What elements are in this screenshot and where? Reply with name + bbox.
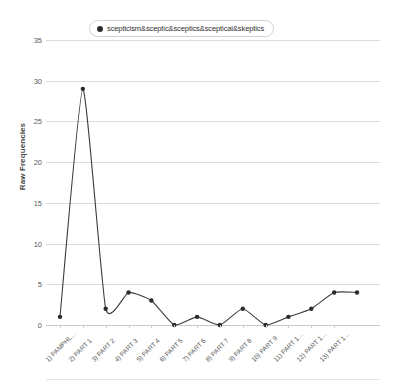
legend-dot-icon [97, 26, 103, 32]
data-point[interactable] [172, 323, 176, 327]
data-point[interactable] [103, 307, 107, 311]
y-axis-ticks: 35302520151050 [16, 40, 42, 325]
y-tick-label: 35 [16, 36, 42, 45]
legend-item-label: scepticism&sceptic&sceptics&sceptical&sk… [107, 25, 264, 33]
gridline-0 [46, 325, 380, 326]
x-tick-label: 3) PART 2 [90, 337, 116, 363]
chart-container: scepticism&sceptic&sceptics&sceptical&sk… [0, 0, 393, 386]
y-tick-label: 30 [16, 76, 42, 85]
data-point[interactable] [218, 323, 222, 327]
x-tick-label: 8) PART 7 [204, 337, 230, 363]
y-tick-label: 10 [16, 239, 42, 248]
x-tick-label: 6) PART 5 [158, 337, 184, 363]
y-tick-label: 20 [16, 158, 42, 167]
x-tick-label: 2) PART 1 [67, 337, 93, 363]
x-tick-label: 5) PART 4 [135, 337, 161, 363]
data-point[interactable] [149, 298, 153, 302]
data-point[interactable] [355, 290, 359, 294]
data-point[interactable] [58, 315, 62, 319]
x-tick-label: 9) PART 8 [227, 337, 253, 363]
chart-legend[interactable]: scepticism&sceptic&sceptics&sceptical&sk… [89, 20, 274, 37]
y-tick-label: 5 [16, 280, 42, 289]
data-point[interactable] [81, 87, 85, 91]
plot-area [46, 40, 380, 325]
x-tick-label: 12) PART 1... [295, 331, 327, 363]
series-line [60, 89, 357, 325]
y-tick-label: 25 [16, 117, 42, 126]
y-tick-label: 0 [16, 321, 42, 330]
x-tick-label: 13) PART 1... [318, 331, 350, 363]
x-tick-label: 7) PART 6 [181, 337, 207, 363]
y-tick-label: 15 [16, 198, 42, 207]
bottom-divider [46, 379, 380, 380]
data-point[interactable] [263, 323, 267, 327]
x-tick-label: 4) PART 3 [113, 337, 139, 363]
data-point[interactable] [309, 307, 313, 311]
x-tick-label: 1) PAMPHL... [44, 330, 77, 363]
line-series [46, 40, 380, 325]
x-tick-label: 10) PART 9 [250, 335, 278, 363]
data-point[interactable] [286, 315, 290, 319]
x-tick-label: 11) PART 1... [272, 331, 304, 363]
data-point[interactable] [332, 290, 336, 294]
data-point[interactable] [126, 290, 130, 294]
data-point[interactable] [241, 307, 245, 311]
data-point[interactable] [195, 315, 199, 319]
